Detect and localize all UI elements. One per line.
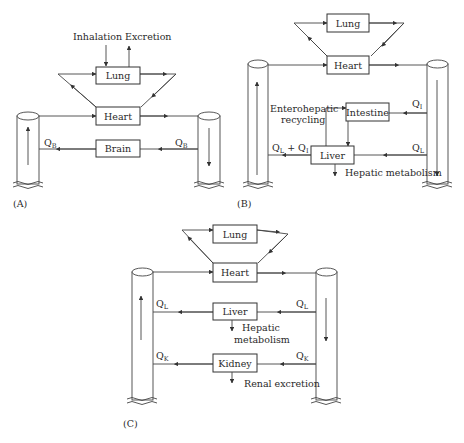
flow-qk-right: QK — [296, 350, 309, 363]
enterohepatic-label-1: Enterohepatic — [270, 103, 338, 114]
arterial-vessel-a — [194, 112, 224, 189]
liver-label-b: Liver — [320, 150, 345, 161]
heart-label-a: Heart — [104, 111, 132, 122]
flow-qb-left: QB — [44, 137, 57, 150]
flow-ql-left-c: QL — [156, 298, 169, 311]
hepatic-metabolism-label-b: Hepatic metabolism — [345, 167, 442, 178]
flow-ql-b: QL — [412, 142, 425, 155]
heart-label-c: Heart — [221, 267, 249, 278]
hepatic-label-c-1: Hepatic — [242, 322, 280, 333]
venous-vessel-b — [243, 60, 273, 189]
flow-qi: QI — [412, 98, 423, 111]
liver-label-c: Liver — [223, 306, 248, 317]
panel-c: Lung Heart Liver QL QL Hepatic metabolis… — [123, 225, 341, 429]
venous-vessel-a — [13, 112, 43, 189]
intestine-label: Intestine — [346, 107, 389, 118]
excretion-label: Excretion — [125, 31, 171, 42]
flow-qb-right: QB — [175, 137, 188, 150]
panel-b: Lung Heart Intestine QI Enterohepatic re… — [237, 14, 452, 209]
panel-label-c: (C) — [123, 418, 138, 429]
pbpk-diagram: Inhalation Excretion Lung Heart Brain QB… — [0, 0, 464, 443]
kidney-label: Kidney — [218, 358, 252, 369]
lung-label-c: Lung — [223, 229, 248, 240]
flow-ql-plus-qi: QL + QI — [272, 142, 309, 155]
hepatic-label-c-2: metabolism — [234, 334, 290, 345]
panel-a: Inhalation Excretion Lung Heart Brain QB… — [13, 31, 224, 209]
renal-excretion-label: Renal excretion — [244, 378, 320, 389]
flow-qk-left: QK — [156, 350, 169, 363]
panel-label-b: (B) — [237, 198, 251, 209]
panel-label-a: (A) — [13, 198, 27, 209]
enterohepatic-label-2: recycling — [281, 114, 325, 125]
brain-label-a: Brain — [105, 143, 131, 154]
lung-label-b: Lung — [336, 18, 361, 29]
inhalation-label: Inhalation — [73, 31, 122, 42]
lung-label-a: Lung — [106, 70, 131, 81]
venous-vessel-c — [127, 268, 157, 405]
flow-ql-right-c: QL — [296, 298, 309, 311]
heart-label-b: Heart — [334, 60, 362, 71]
